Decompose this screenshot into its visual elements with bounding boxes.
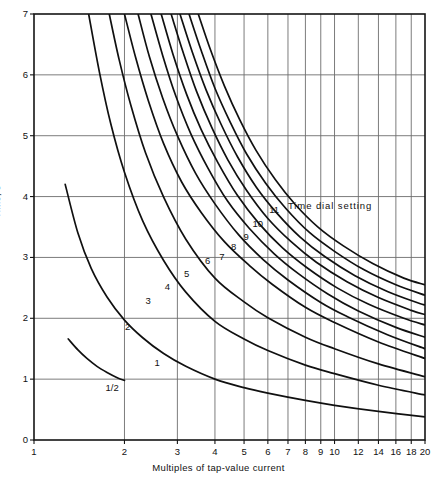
x-tick-label-14: 14 xyxy=(373,447,384,457)
curve-label-3: 3 xyxy=(146,296,151,306)
x-tick-label-2: 2 xyxy=(122,447,127,457)
x-tick-label-1: 1 xyxy=(31,447,36,457)
curve-7 xyxy=(161,14,425,325)
x-tick-label-6: 6 xyxy=(265,447,270,457)
curve-label-6: 6 xyxy=(205,256,210,266)
x-tick-label-18: 18 xyxy=(406,447,417,457)
curve-label-4: 4 xyxy=(165,282,170,292)
x-tick-label-9: 9 xyxy=(318,447,323,457)
x-tick-label-4: 4 xyxy=(212,447,217,457)
x-tick-label-16: 16 xyxy=(391,447,402,457)
y-axis-title: Time, s xyxy=(0,185,2,218)
y-tick-label-2: 2 xyxy=(14,314,28,324)
y-tick-label-1: 1 xyxy=(14,374,28,384)
y-tick-label-3: 3 xyxy=(14,253,28,263)
curve-label-9: 9 xyxy=(243,233,248,243)
y-tick-label-5: 5 xyxy=(14,131,28,141)
x-tick-label-10: 10 xyxy=(329,447,340,457)
x-tick-label-8: 8 xyxy=(303,447,308,457)
curve-label-1: 1 xyxy=(155,359,160,369)
curve-label-10: 10 xyxy=(252,219,263,229)
curve-8 xyxy=(171,14,425,315)
curve-3 xyxy=(109,14,425,377)
curve-4 xyxy=(124,14,425,358)
curve-label-1-2: 1/2 xyxy=(106,383,119,393)
y-tick-label-6: 6 xyxy=(14,70,28,80)
plot-frame xyxy=(34,14,425,440)
annotation-time-dial-setting: Time dial setting xyxy=(288,200,372,211)
y-tick-label-4: 4 xyxy=(14,192,28,202)
curve-label-8: 8 xyxy=(231,242,236,252)
x-tick-label-5: 5 xyxy=(241,447,246,457)
curve-1-2 xyxy=(68,339,124,380)
x-tick-label-3: 3 xyxy=(175,447,180,457)
curve-label-11: 11 xyxy=(269,205,279,215)
x-axis-title: Multiples of tap-value current xyxy=(152,462,284,473)
y-tick-label-7: 7 xyxy=(14,9,28,19)
curve-1 xyxy=(65,184,425,416)
vertical-gridlines xyxy=(124,14,411,440)
x-tick-label-7: 7 xyxy=(285,447,290,457)
x-tick-label-12: 12 xyxy=(353,447,364,457)
x-tick-label-20: 20 xyxy=(420,447,431,457)
time-current-characteristic-chart: 123456789101214161820 01234567 1/2123456… xyxy=(0,0,437,484)
curve-label-7: 7 xyxy=(219,253,224,263)
curve-label-5: 5 xyxy=(184,269,189,279)
y-tick-label-0: 0 xyxy=(14,435,28,445)
chart-plot-area xyxy=(0,0,437,484)
curve-label-2: 2 xyxy=(125,322,130,332)
